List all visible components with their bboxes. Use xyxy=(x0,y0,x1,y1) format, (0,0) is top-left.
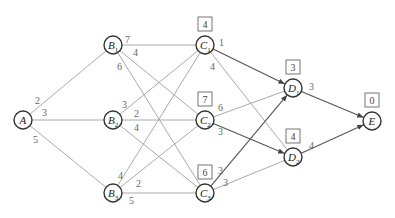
edge-a-b1 xyxy=(30,51,106,114)
node-e: E xyxy=(363,112,381,130)
edge-weight-c1-d2: 4 xyxy=(210,61,215,72)
edge-c1-d1 xyxy=(213,49,285,84)
node-c1: C1 xyxy=(196,36,214,54)
edge-weight-c1-d1: 1 xyxy=(219,37,224,48)
edge-weight-b1-c1: 7 xyxy=(125,34,130,45)
edge-c2-d2 xyxy=(213,123,284,153)
node-c3: C3 xyxy=(196,184,214,202)
node-a: A xyxy=(14,111,32,129)
edge-weight-b2-c3: 4 xyxy=(134,122,139,133)
edge-d1-e xyxy=(301,91,363,117)
edge-weight-b1-c2: 4 xyxy=(133,47,138,58)
edge-c2-d1 xyxy=(213,91,284,117)
value-box-d2: 4 xyxy=(286,129,300,143)
value-c3: 6 xyxy=(203,167,208,178)
value-c1: 4 xyxy=(203,19,208,30)
node-label-e: E xyxy=(368,115,376,127)
edge-weight-b3-c2: 2 xyxy=(136,178,141,189)
edge-weight-c2-d1: 6 xyxy=(218,102,223,113)
edge-weight-b3-c1: 4 xyxy=(118,170,123,181)
value-c2: 7 xyxy=(203,94,208,105)
edge-weight-c2-d2: 3 xyxy=(218,126,223,137)
value-box-c3: 6 xyxy=(198,165,212,179)
edge-weight-b2-c2: 2 xyxy=(134,108,139,119)
node-b2: B2 xyxy=(104,111,122,129)
edge-weight-d2-e: 4 xyxy=(309,140,314,151)
edge-weight-b1-c3: 6 xyxy=(117,61,122,72)
value-box-e: 0 xyxy=(365,93,379,107)
edge-weight-a-b3: 5 xyxy=(33,134,38,145)
graph-diagram: 23574632442514633334 476340 AB1B2B3C1C2C… xyxy=(0,0,395,218)
node-label-a: A xyxy=(19,114,27,126)
node-b1: B1 xyxy=(104,36,122,54)
edge-weight-c3-d2: 3 xyxy=(223,177,228,188)
node-d2: D2 xyxy=(284,148,302,166)
node-b3: B3 xyxy=(104,184,122,202)
value-e: 0 xyxy=(370,95,375,106)
nodes-layer: AB1B2B3C1C2C3D1D2E xyxy=(14,36,381,202)
node-c2: C2 xyxy=(196,111,214,129)
value-d1: 3 xyxy=(291,62,296,73)
value-box-c1: 4 xyxy=(198,17,212,31)
value-box-c2: 7 xyxy=(198,92,212,106)
edge-weight-c3-d1: 3 xyxy=(218,165,223,176)
node-d1: D1 xyxy=(284,79,302,97)
edge-a-b3 xyxy=(30,126,106,188)
edge-weight-a-b2: 3 xyxy=(42,107,47,118)
edge-weight-d1-e: 3 xyxy=(309,81,314,92)
value-box-d1: 3 xyxy=(286,60,300,74)
edge-weight-b3-c3: 5 xyxy=(129,195,134,206)
edge-weight-b2-c1: 3 xyxy=(122,99,127,110)
value-d2: 4 xyxy=(291,131,296,142)
edge-weight-a-b1: 2 xyxy=(35,95,40,106)
